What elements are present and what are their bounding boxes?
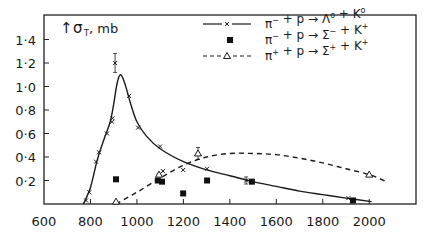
square-marker-icon — [159, 179, 165, 185]
cross-marker-icon — [158, 144, 162, 148]
square-marker-icon — [249, 179, 255, 185]
y-axis-label: ↑ σ T , mb — [60, 19, 118, 38]
data-markers — [84, 54, 373, 205]
square-marker-icon — [113, 176, 119, 182]
y-tick-label: 1·4 — [15, 33, 36, 48]
x-tick-label: 1600 — [260, 214, 293, 229]
cross-marker-icon — [161, 169, 165, 173]
cross-marker-icon — [225, 22, 229, 26]
cross-section-chart: 600800100012001400160018002000 0·20·40·6… — [0, 0, 438, 236]
x-tick-label: 600 — [32, 214, 57, 229]
y-tick-label: 1·0 — [15, 80, 36, 95]
x-tick-label: 1000 — [120, 214, 153, 229]
triangle-marker-icon — [195, 150, 202, 156]
y-tick-label: 0·4 — [15, 150, 36, 165]
unit-label: , mb — [89, 21, 118, 36]
x-tick-label: 2000 — [353, 214, 386, 229]
curve-series-0 — [83, 75, 371, 204]
triangle-marker-icon — [113, 198, 120, 204]
square-marker-icon — [180, 190, 186, 196]
x-tick-label: 1800 — [306, 214, 339, 229]
y-tick-label: 0·2 — [15, 174, 36, 189]
x-tick-label: 1200 — [167, 214, 200, 229]
y-tick-label: 0·6 — [15, 127, 36, 142]
sigma-symbol: σ — [73, 19, 83, 37]
x-tick-label: 1400 — [213, 214, 246, 229]
y-tick-label: 1·2 — [15, 56, 36, 71]
cross-marker-icon — [181, 168, 185, 172]
up-arrow-icon: ↑ — [60, 19, 73, 37]
curves — [83, 75, 386, 204]
square-marker-icon — [227, 37, 233, 43]
triangle-marker-icon — [224, 53, 231, 59]
y-tick-label: 0·8 — [15, 103, 36, 118]
square-marker-icon — [204, 178, 210, 184]
x-tick-label: 800 — [78, 214, 103, 229]
square-marker-icon — [350, 197, 356, 203]
